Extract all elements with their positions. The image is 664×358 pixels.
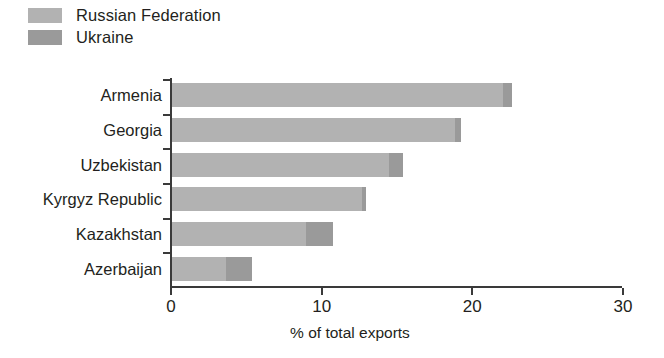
- legend-label-ukraine: Ukraine: [76, 29, 134, 46]
- bar-segment-russian-federation: [172, 257, 226, 281]
- chart-legend: Russian Federation Ukraine: [28, 4, 428, 48]
- y-axis-label-uzbekistan: Uzbekistan: [0, 157, 162, 174]
- x-axis-line: [170, 286, 622, 288]
- x-axis-title-text: % of total exports: [290, 325, 410, 341]
- bar-row: [172, 153, 403, 177]
- x-axis-tick: [321, 288, 323, 295]
- legend-item-ukraine: Ukraine: [28, 26, 428, 48]
- y-axis-label-kyrgyz-republic: Kyrgyz Republic: [0, 191, 162, 208]
- legend-swatch-russian-federation: [28, 8, 62, 23]
- y-axis-label-azerbaijan: Azerbaijan: [0, 261, 162, 278]
- bar-row: [172, 187, 366, 211]
- bar-segment-russian-federation: [172, 222, 306, 246]
- legend-label-russian-federation: Russian Federation: [76, 7, 221, 24]
- bar-row: [172, 222, 333, 246]
- x-axis-tick: [170, 288, 172, 295]
- y-axis-tick: [163, 252, 170, 254]
- bar-row: [172, 257, 252, 281]
- y-axis-label-armenia: Armenia: [0, 87, 162, 104]
- x-axis-tick: [622, 288, 624, 295]
- y-axis-label-kazakhstan: Kazakhstan: [0, 226, 162, 243]
- y-axis-label-georgia: Georgia: [0, 122, 162, 139]
- legend-item-russian-federation: Russian Federation: [28, 4, 428, 26]
- x-axis-tick-label: 30: [614, 298, 633, 315]
- plot-area: 0102030: [170, 78, 622, 286]
- bar-segment-ukraine: [226, 257, 252, 281]
- x-axis-tick-label: 10: [312, 298, 331, 315]
- bar-row: [172, 118, 461, 142]
- y-axis-tick: [163, 114, 170, 116]
- bar-segment-russian-federation: [172, 187, 362, 211]
- bar-row: [172, 83, 512, 107]
- y-axis-tick: [163, 218, 170, 220]
- x-axis-tick-label: 20: [463, 298, 482, 315]
- bar-segment-ukraine: [362, 187, 367, 211]
- bar-segment-russian-federation: [172, 83, 503, 107]
- x-axis-tick-label: 0: [166, 298, 175, 315]
- y-axis-tick: [163, 148, 170, 150]
- legend-swatch-ukraine: [28, 30, 62, 45]
- bar-segment-ukraine: [503, 83, 512, 107]
- bar-segment-russian-federation: [172, 118, 455, 142]
- x-axis-title: % of total exports: [0, 325, 664, 341]
- bar-segment-russian-federation: [172, 153, 389, 177]
- y-axis-line: [170, 78, 172, 286]
- bar-segment-ukraine: [389, 153, 403, 177]
- y-axis-tick: [163, 79, 170, 81]
- y-axis-tick: [163, 183, 170, 185]
- bar-segment-ukraine: [306, 222, 333, 246]
- x-axis-tick: [471, 288, 473, 295]
- bar-chart: Russian Federation Ukraine ArmeniaGeorgi…: [0, 0, 664, 358]
- y-axis-category-labels: ArmeniaGeorgiaUzbekistanKyrgyz RepublicK…: [0, 78, 162, 286]
- bar-segment-ukraine: [455, 118, 461, 142]
